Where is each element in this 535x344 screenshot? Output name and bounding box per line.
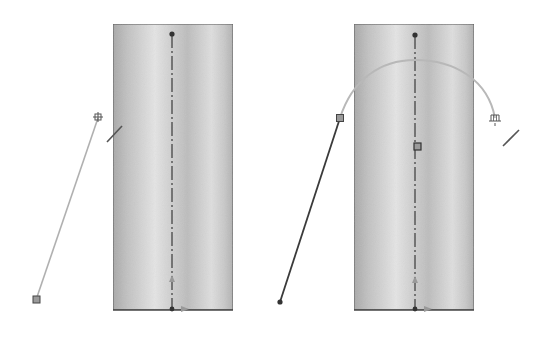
start-point[interactable] — [277, 299, 282, 304]
arc-center-handle[interactable] — [414, 143, 421, 150]
sketch-line-preview[interactable] — [36, 118, 98, 300]
axis-bottom-point[interactable] — [170, 307, 175, 312]
right-panel — [277, 24, 519, 312]
axis-top-point[interactable] — [169, 31, 174, 36]
start-handle[interactable] — [33, 296, 40, 303]
cylinder-body[interactable] — [354, 24, 474, 310]
left-panel — [33, 24, 233, 312]
line-end-handle[interactable] — [337, 115, 344, 122]
cylinder-body[interactable] — [113, 24, 233, 310]
axis-top-point[interactable] — [412, 32, 417, 37]
axis-bottom-point[interactable] — [413, 307, 418, 312]
sketch-canvas[interactable] — [0, 0, 535, 344]
sketch-line-solid[interactable] — [280, 118, 340, 302]
sketch-point-cursor-icon — [93, 112, 103, 122]
line-tool-glyph-icon — [503, 130, 519, 146]
